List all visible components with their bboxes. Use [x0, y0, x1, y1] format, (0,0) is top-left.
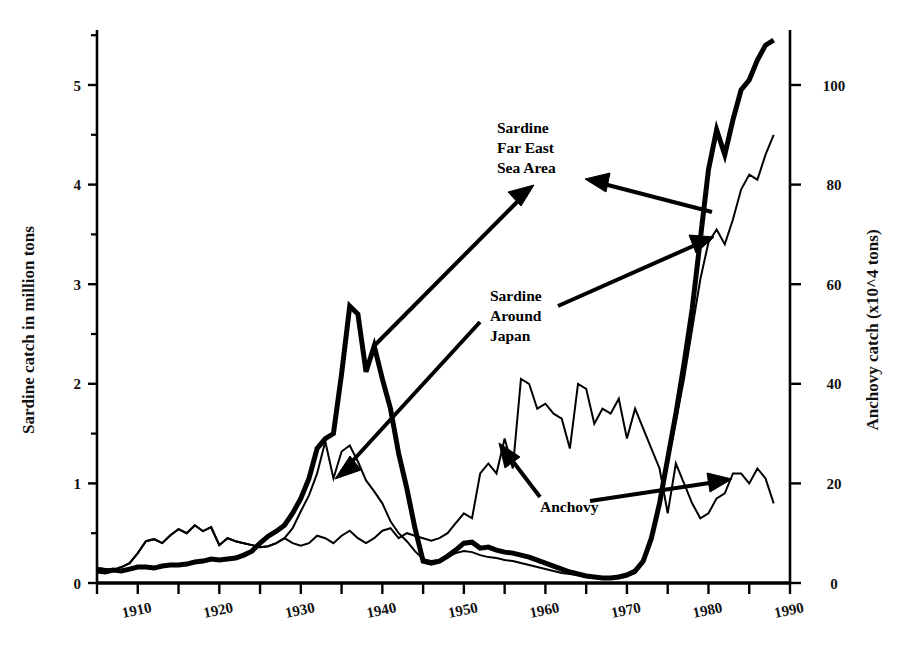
annotation-far-east-line-3: Sea Area — [497, 159, 556, 176]
annotation-far-east-line-1: Sardine — [497, 119, 549, 136]
annotation-around-japan-line-1: Sardine — [490, 287, 542, 304]
left-axis-tick-label: 5 — [74, 78, 82, 94]
annotation-around-japan-line-3: Japan — [490, 327, 531, 344]
right-axis-title: Anchovy catch (x10^4 tons) — [863, 229, 882, 430]
chart-background — [0, 0, 910, 671]
right-axis-tick-label: 60 — [827, 277, 842, 293]
right-axis-tick-label: 20 — [827, 476, 842, 492]
chart-figure: 0123450204060801001910192019301940195019… — [0, 0, 910, 671]
left-axis-tick-label: 2 — [74, 376, 82, 392]
right-axis-tick-label: 80 — [827, 177, 842, 193]
right-axis-tick-label: 100 — [823, 78, 846, 94]
left-axis-tick-label: 0 — [74, 576, 82, 592]
fisheries-catch-line-chart: 0123450204060801001910192019301940195019… — [0, 0, 910, 671]
annotation-sardine-far-east: Sardine Far East Sea Area — [497, 119, 556, 176]
annotation-far-east-line-2: Far East — [497, 139, 555, 156]
left-axis-title: Sardine catch in million tons — [19, 226, 38, 434]
right-axis-tick-label: 0 — [830, 576, 838, 592]
left-axis-tick-label: 4 — [74, 177, 82, 193]
annotation-around-japan-line-2: Around — [490, 307, 542, 324]
left-axis-tick-label: 1 — [74, 476, 82, 492]
right-axis-tick-label: 40 — [827, 376, 842, 392]
left-axis-tick-label: 3 — [74, 277, 82, 293]
